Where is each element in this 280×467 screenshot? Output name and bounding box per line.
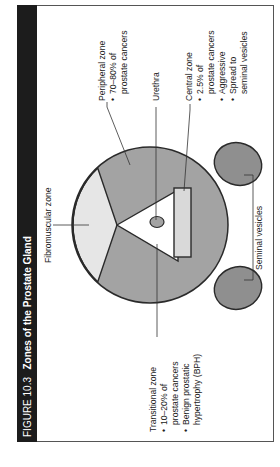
svg-text:10–20% of: 10–20% of: [159, 383, 169, 425]
svg-text:hypertrophy (BPH): hypertrophy (BPH): [192, 354, 202, 425]
bullet-icon: •: [181, 429, 191, 432]
svg-text:prostate cancers: prostate cancers: [206, 30, 216, 94]
label-urethra: Urethra: [151, 72, 161, 101]
fibromuscular-zone-title: Fibromuscular zone: [43, 187, 53, 263]
bullet-icon: •: [228, 98, 238, 101]
svg-text:prostate cancers: prostate cancers: [170, 361, 180, 425]
bullet-icon: •: [108, 98, 118, 101]
svg-text:Aggressive: Aggressive: [217, 51, 227, 94]
urethra-title: Urethra: [151, 72, 161, 101]
label-seminal-vesicles: Seminal vesicles: [254, 206, 264, 270]
svg-text:70–80% of: 70–80% of: [108, 52, 118, 94]
label-fibromuscular-zone: Fibromuscular zone: [43, 187, 53, 263]
transitional-zone-title: Transitional zone: [148, 367, 158, 432]
bullet-icon: •: [217, 98, 227, 101]
svg-text:Spread to: Spread to: [228, 57, 238, 94]
svg-text:2.5% of: 2.5% of: [195, 64, 205, 94]
figure-title-text: Zones of the Prostate Gland: [22, 236, 33, 369]
svg-text:prostate cancers: prostate cancers: [119, 30, 129, 94]
peripheral-zone-title: Peripheral zone: [97, 41, 107, 101]
bullet-icon: •: [159, 429, 169, 432]
urethra: [150, 217, 164, 228]
figure-canvas: FIGURE 10.3 Zones of the Prostate Gland …: [0, 0, 280, 467]
figure-number: FIGURE 10.3: [22, 377, 33, 437]
bullet-icon: •: [195, 98, 205, 101]
svg-text:seminal vesicles: seminal vesicles: [239, 31, 249, 94]
central-zone-title: Central zone: [184, 52, 194, 101]
svg-text:Benign prostatic: Benign prostatic: [181, 363, 191, 425]
seminal-vesicles-title: Seminal vesicles: [254, 206, 264, 270]
central-zone: [174, 188, 191, 257]
